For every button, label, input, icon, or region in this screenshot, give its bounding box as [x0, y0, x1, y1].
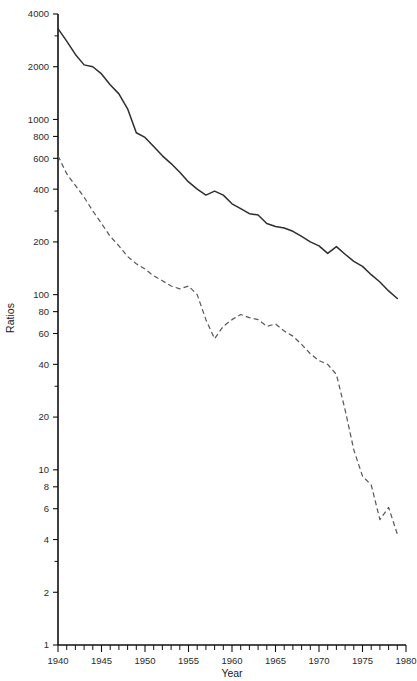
data-line-dashed	[58, 156, 397, 534]
y-axis-tick-labels: 1246810204060801002004006008001000200040…	[28, 8, 49, 650]
y-tick-label: 4000	[28, 8, 49, 19]
y-tick-label: 6	[44, 503, 49, 514]
y-tick-label: 40	[38, 359, 49, 370]
y-tick-label: 20	[38, 411, 49, 422]
y-tick-label: 4	[44, 534, 49, 545]
y-tick-label: 800	[33, 131, 49, 142]
x-tick-label: 1945	[91, 655, 112, 666]
x-tick-label: 1980	[395, 655, 416, 666]
y-tick-label: 2	[44, 587, 49, 598]
y-tick-label: 80	[38, 306, 49, 317]
y-tick-label: 1000	[28, 114, 49, 125]
x-axis-title: Year	[221, 667, 243, 679]
x-tick-label: 1950	[134, 655, 155, 666]
x-tick-label: 1965	[265, 655, 286, 666]
x-tick-label: 1970	[308, 655, 329, 666]
x-axis-group: 194019451950195519601965197019751980 Yea…	[47, 645, 416, 679]
y-tick-label: 100	[33, 289, 49, 300]
data-line-solid	[58, 29, 397, 299]
y-axis-group: 1246810204060801002004006008001000200040…	[4, 8, 58, 650]
x-tick-label: 1975	[352, 655, 373, 666]
y-tick-label: 8	[44, 481, 49, 492]
y-axis-title: Ratios	[4, 303, 16, 333]
y-tick-label: 2000	[28, 61, 49, 72]
y-tick-label: 1	[44, 639, 49, 650]
x-axis-tick-labels: 194019451950195519601965197019751980	[47, 655, 416, 666]
y-tick-label: 60	[38, 328, 49, 339]
y-tick-label: 10	[38, 464, 49, 475]
plot-series-group	[58, 29, 397, 534]
ratios-vs-year-line-chart: 1246810204060801002004006008001000200040…	[0, 0, 417, 681]
x-tick-label: 1940	[47, 655, 68, 666]
chart-container: 1246810204060801002004006008001000200040…	[0, 0, 417, 681]
x-tick-label: 1955	[178, 655, 199, 666]
y-tick-label: 400	[33, 184, 49, 195]
y-tick-label: 200	[33, 236, 49, 247]
x-tick-label: 1960	[221, 655, 242, 666]
y-tick-label: 600	[33, 153, 49, 164]
x-axis-ticks	[58, 645, 406, 652]
